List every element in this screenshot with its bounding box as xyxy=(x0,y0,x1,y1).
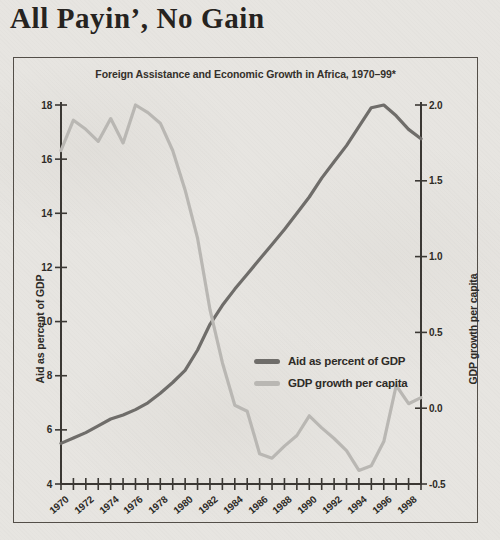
chart-plot xyxy=(14,58,477,522)
left-tick-label: 18 xyxy=(22,99,52,112)
legend-swatch xyxy=(254,359,280,364)
right-tick-label: 1.5 xyxy=(429,174,463,187)
legend-item: Aid as percent of GDP xyxy=(254,350,408,372)
legend-item: GDP growth per capita xyxy=(254,372,408,394)
page: All Payin’, No Gain Foreign Assistance a… xyxy=(0,0,500,540)
chart-panel: Foreign Assistance and Economic Growth i… xyxy=(13,57,478,523)
legend-label: GDP growth per capita xyxy=(288,377,408,389)
right-tick-label: 2.0 xyxy=(429,99,463,112)
legend-swatch xyxy=(254,381,280,386)
left-tick-label: 14 xyxy=(22,207,52,220)
left-tick-label: 6 xyxy=(22,423,52,436)
right-tick-label: 0.5 xyxy=(429,326,463,339)
legend: Aid as percent of GDPGDP growth per capi… xyxy=(254,350,408,394)
left-tick-label: 12 xyxy=(22,261,52,274)
left-tick-label: 8 xyxy=(22,369,52,382)
right-tick-label: 0.0 xyxy=(429,402,463,415)
legend-label: Aid as percent of GDP xyxy=(288,355,405,367)
right-tick-label: -0.5 xyxy=(429,478,463,491)
right-tick-label: 1.0 xyxy=(429,250,463,263)
gdp-line xyxy=(61,105,421,470)
left-tick-label: 10 xyxy=(22,315,52,328)
page-title: All Payin’, No Gain xyxy=(10,2,265,35)
left-tick-label: 16 xyxy=(22,153,52,166)
left-tick-label: 4 xyxy=(22,478,52,491)
